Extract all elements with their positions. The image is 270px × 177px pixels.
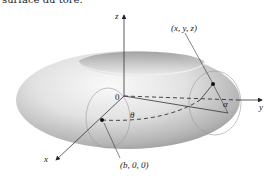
origin-label: 0 <box>115 92 120 102</box>
torus-diagram: z y x 0 (x, y, z) (b, 0, 0) θ α <box>0 0 270 177</box>
y-axis-label: y <box>258 102 263 112</box>
point-xyz-label: (x, y, z) <box>171 23 197 33</box>
z-axis-label: z <box>114 11 119 21</box>
point-b00 <box>100 118 104 122</box>
alpha-label: α <box>223 99 228 109</box>
x-axis-label: x <box>43 154 48 164</box>
point-b00-label: (b, 0, 0) <box>120 160 149 170</box>
point-xyz <box>211 82 215 86</box>
theta-label: θ <box>130 110 135 120</box>
